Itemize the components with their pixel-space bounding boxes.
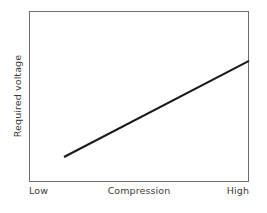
x-axis-low-label: Low (29, 185, 48, 196)
plot-frame (29, 11, 249, 182)
x-axis-high-label: High (227, 185, 249, 196)
chart-figure: Low Compression High Required voltage (0, 0, 267, 213)
y-axis-title: Required voltage (12, 55, 23, 137)
x-axis-title: Compression (108, 185, 171, 196)
